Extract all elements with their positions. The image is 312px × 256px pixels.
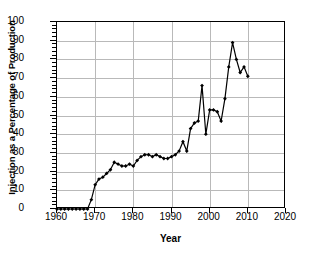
data-series-line	[57, 22, 286, 209]
data-point-marker	[78, 207, 82, 211]
y-tick-label: 30	[0, 147, 24, 157]
data-point-marker	[143, 153, 147, 157]
data-point-marker	[234, 58, 238, 62]
data-point-marker	[196, 119, 200, 123]
data-point-marker	[181, 140, 185, 144]
data-point-marker	[185, 149, 189, 153]
x-tick-label: 1960	[36, 212, 76, 222]
data-point-marker	[162, 157, 166, 161]
data-point-marker	[204, 132, 208, 136]
data-point-marker	[70, 207, 74, 211]
data-point-marker	[154, 153, 158, 157]
data-point-marker	[231, 41, 235, 45]
chart-container: Injection as a Percentage of Production …	[0, 0, 312, 256]
x-tick-label: 2020	[265, 212, 305, 222]
data-point-marker	[147, 153, 151, 157]
data-point-marker	[124, 164, 128, 168]
y-tick-label: 90	[0, 35, 24, 45]
series-polyline	[57, 43, 248, 209]
x-tick-label: 2000	[189, 212, 229, 222]
data-point-marker	[151, 155, 155, 159]
y-tick-label: 0	[0, 203, 24, 213]
data-point-marker	[120, 164, 124, 168]
data-point-marker	[227, 65, 231, 69]
data-point-marker	[223, 97, 227, 101]
y-tick-label: 70	[0, 72, 24, 82]
data-point-marker	[67, 207, 71, 211]
data-point-marker	[89, 198, 93, 202]
y-tick-label: 100	[0, 16, 24, 26]
data-point-marker	[166, 157, 170, 161]
data-point-marker	[208, 108, 212, 112]
y-tick-label: 20	[0, 166, 24, 176]
y-tick-label: 40	[0, 128, 24, 138]
x-tick-label: 1970	[74, 212, 114, 222]
x-tick-label: 1980	[112, 212, 152, 222]
data-point-marker	[200, 84, 204, 88]
y-tick-label: 10	[0, 184, 24, 194]
data-point-marker	[246, 74, 250, 78]
data-point-marker	[116, 162, 120, 166]
y-tick-label: 60	[0, 91, 24, 101]
x-tick-label: 1990	[151, 212, 191, 222]
x-tick-label: 2010	[227, 212, 267, 222]
data-point-marker	[215, 110, 219, 114]
data-point-marker	[128, 162, 132, 166]
data-point-marker	[219, 119, 223, 123]
y-tick-label: 50	[0, 110, 24, 120]
data-point-marker	[212, 108, 216, 112]
data-point-marker	[158, 155, 162, 159]
data-point-marker	[74, 207, 78, 211]
plot-area	[56, 21, 285, 208]
y-tick-label: 80	[0, 53, 24, 63]
x-axis-title: Year	[56, 233, 285, 244]
data-point-marker	[170, 155, 174, 159]
